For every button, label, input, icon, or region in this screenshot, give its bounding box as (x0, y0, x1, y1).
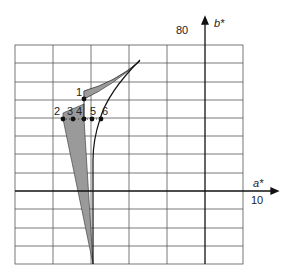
point-2 (61, 117, 66, 122)
b-tick-label: 80 (176, 24, 188, 36)
point-label-5: 5 (90, 105, 96, 117)
b-axis-arrow-icon (202, 17, 208, 24)
shaded-region-lower (63, 104, 93, 264)
a-axis-label: a* (253, 177, 264, 189)
axes (15, 17, 278, 264)
point-4 (82, 117, 87, 122)
grid (15, 45, 243, 264)
point-3 (71, 117, 76, 122)
point-label-2: 2 (54, 105, 60, 117)
point-label-1: 1 (76, 86, 82, 98)
a-tick-label: 10 (251, 194, 263, 206)
lab-diagram: 1 2 3 4 5 6 80 b* a* 10 (0, 0, 291, 279)
point-label-4: 4 (76, 105, 82, 117)
point-1 (82, 97, 87, 102)
b-axis-label: b* (214, 17, 225, 29)
point-5 (90, 117, 95, 122)
point-label-6: 6 (102, 105, 108, 117)
point-label-3: 3 (67, 105, 73, 117)
point-6 (99, 117, 104, 122)
a-axis-arrow-icon (271, 188, 278, 194)
